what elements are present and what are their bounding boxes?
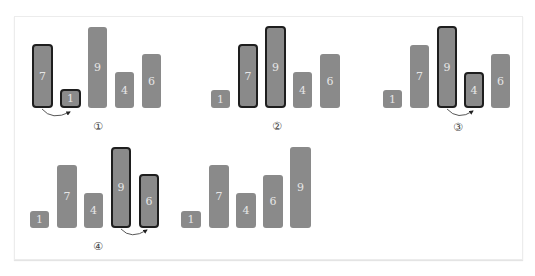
bar-value: 1 bbox=[188, 214, 195, 225]
bar-value: 7 bbox=[39, 71, 46, 82]
step-label-3: ③ bbox=[453, 122, 463, 133]
bar-7: 7 bbox=[410, 45, 429, 108]
bar-value: 4 bbox=[90, 205, 97, 216]
bar-6: 6 bbox=[491, 54, 510, 108]
step-label-1: ① bbox=[93, 121, 103, 132]
bar-7: 7 bbox=[57, 165, 77, 228]
bar-4: 4 bbox=[115, 72, 134, 108]
bar-value: 6 bbox=[497, 76, 504, 87]
bar-1-highlighted: 1 bbox=[60, 89, 81, 108]
bar-4-highlighted: 4 bbox=[464, 72, 484, 108]
bar-value: 9 bbox=[118, 182, 125, 193]
bar-7-highlighted: 7 bbox=[32, 44, 53, 108]
step-label-4: ④ bbox=[93, 241, 103, 252]
bar-9: 9 bbox=[290, 147, 311, 228]
bar-value: 1 bbox=[217, 94, 224, 105]
bar-value: 9 bbox=[297, 182, 304, 193]
bar-9-highlighted: 9 bbox=[111, 147, 131, 228]
bar-value: 4 bbox=[121, 85, 128, 96]
bar-9-highlighted: 9 bbox=[437, 26, 457, 108]
bar-value: 1 bbox=[389, 94, 396, 105]
bar-value: 9 bbox=[94, 62, 101, 73]
bar-4: 4 bbox=[84, 193, 103, 228]
bar-value: 6 bbox=[148, 76, 155, 87]
bar-4: 4 bbox=[293, 72, 312, 108]
bar-value: 9 bbox=[444, 62, 451, 73]
bar-1: 1 bbox=[383, 90, 402, 108]
bar-1: 1 bbox=[181, 211, 201, 228]
bar-value: 7 bbox=[416, 71, 423, 82]
bar-value: 4 bbox=[243, 205, 250, 216]
bar-1: 1 bbox=[211, 90, 230, 108]
bar-value: 1 bbox=[36, 214, 43, 225]
bar-7: 7 bbox=[209, 165, 229, 228]
bar-value: 9 bbox=[272, 62, 279, 73]
bar-value: 1 bbox=[67, 93, 74, 104]
bar-1: 1 bbox=[30, 211, 49, 228]
step-label-2: ② bbox=[272, 121, 282, 132]
bar-4: 4 bbox=[236, 193, 256, 228]
bar-value: 6 bbox=[327, 76, 334, 87]
bar-value: 7 bbox=[216, 191, 223, 202]
bar-6: 6 bbox=[142, 54, 161, 108]
bar-value: 6 bbox=[146, 196, 153, 207]
bar-value: 4 bbox=[471, 85, 478, 96]
bar-6-highlighted: 6 bbox=[139, 174, 159, 228]
bar-9-highlighted: 9 bbox=[265, 26, 286, 108]
bar-value: 4 bbox=[299, 85, 306, 96]
bar-7-highlighted: 7 bbox=[238, 44, 258, 108]
bar-9: 9 bbox=[88, 27, 107, 108]
bar-value: 7 bbox=[245, 71, 252, 82]
bar-value: 6 bbox=[270, 196, 277, 207]
bar-6: 6 bbox=[320, 54, 340, 108]
bar-value: 7 bbox=[64, 191, 71, 202]
bar-6: 6 bbox=[263, 175, 283, 228]
